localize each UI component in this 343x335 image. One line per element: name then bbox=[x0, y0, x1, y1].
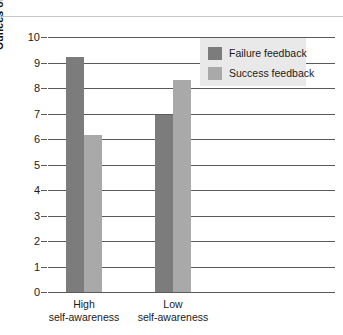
y-axis-tick-label: 6 bbox=[8, 134, 40, 145]
legend-swatch-success bbox=[208, 67, 222, 80]
bar-success bbox=[173, 80, 191, 292]
y-axis-title: Ounces of wine consumed bbox=[0, 0, 5, 50]
legend-item-failure: Failure feedback bbox=[208, 44, 300, 62]
x-axis-label-line1: Low bbox=[123, 298, 223, 311]
y-axis-tick-label: 5 bbox=[8, 160, 40, 171]
legend: Failure feedback Success feedback bbox=[200, 38, 306, 86]
y-axis-tick-label: 1 bbox=[8, 262, 40, 273]
legend-label-failure: Failure feedback bbox=[229, 47, 307, 59]
gridline bbox=[48, 88, 335, 89]
y-axis-tick-label: 2 bbox=[8, 236, 40, 247]
bar-failure bbox=[155, 115, 173, 292]
bar-success bbox=[84, 135, 102, 292]
x-axis-label-line2: self-awareness bbox=[123, 311, 223, 324]
y-axis-tick-mark bbox=[41, 139, 47, 140]
y-axis-tick-mark bbox=[41, 165, 47, 166]
y-axis-tick-label: 3 bbox=[8, 211, 40, 222]
y-axis-tick-label: 8 bbox=[8, 83, 40, 94]
x-axis-label-group: Highself-awareness bbox=[34, 298, 134, 324]
y-axis-tick-label: 4 bbox=[8, 185, 40, 196]
y-axis-tick-label: 7 bbox=[8, 109, 40, 120]
y-axis-tick-mark bbox=[41, 216, 47, 217]
y-axis-tick-mark bbox=[41, 190, 47, 191]
legend-swatch-failure bbox=[208, 47, 222, 60]
bar-chart: Ounces of wine consumed 012345678910 Hig… bbox=[0, 0, 343, 335]
gridline bbox=[48, 114, 335, 115]
y-axis-tick-label: 9 bbox=[8, 58, 40, 69]
bar-failure bbox=[66, 57, 84, 292]
y-axis-tick-mark bbox=[41, 292, 47, 293]
gridline bbox=[48, 292, 335, 293]
legend-item-success: Success feedback bbox=[208, 64, 300, 82]
y-axis-tick-mark bbox=[41, 114, 47, 115]
y-axis-tick-mark bbox=[41, 241, 47, 242]
x-axis-label-line2: self-awareness bbox=[34, 311, 134, 324]
y-axis-tick-mark bbox=[41, 267, 47, 268]
x-axis-label-group: Lowself-awareness bbox=[123, 298, 223, 324]
legend-label-success: Success feedback bbox=[229, 67, 314, 79]
top-divider bbox=[0, 16, 343, 17]
y-axis-tick-mark bbox=[41, 37, 47, 38]
x-axis-label-line1: High bbox=[34, 298, 134, 311]
y-axis-tick-mark bbox=[41, 88, 47, 89]
y-axis-tick-mark bbox=[41, 63, 47, 64]
y-axis-tick-label: 10 bbox=[8, 32, 40, 43]
y-axis-tick-label: 0 bbox=[8, 287, 40, 298]
